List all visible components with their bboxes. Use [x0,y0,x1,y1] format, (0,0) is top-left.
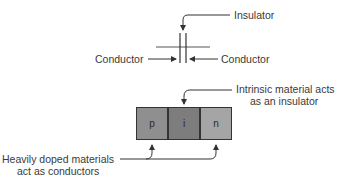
doped-label-line1: Heavily doped materials [2,153,114,165]
intrinsic-label-line2: as an insulator [250,95,318,107]
n-region: n [200,107,232,140]
doped-label-line2: act as conductors [17,165,99,177]
p-region: p [136,107,168,140]
right-conductor-label: Conductor [221,53,269,65]
n-region-label: n [213,118,219,129]
intrinsic-label-line1: Intrinsic material acts [236,83,335,95]
i-region: i [168,107,200,140]
left-conductor-label: Conductor [95,53,143,65]
i-region-label: i [183,118,185,129]
p-region-label: p [149,118,155,129]
insulator-label: Insulator [234,9,274,21]
